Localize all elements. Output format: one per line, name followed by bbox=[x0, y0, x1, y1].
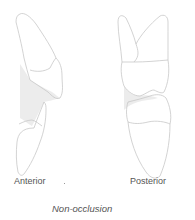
posterior-upper-cej-line bbox=[122, 60, 168, 62]
anterior-gap-shading bbox=[20, 64, 60, 126]
posterior-upper-roots bbox=[118, 15, 168, 62]
anterior-label: Anterior bbox=[14, 176, 46, 186]
posterior-label: Posterior bbox=[130, 176, 166, 186]
figure-caption: Non-occlusion bbox=[52, 203, 112, 214]
posterior-upper-crown bbox=[121, 60, 169, 96]
posterior-lower-root bbox=[128, 122, 170, 178]
posterior-upper-root-split bbox=[134, 44, 138, 62]
teeth-illustration bbox=[0, 0, 195, 220]
non-occlusion-figure: Anterior Posterior Non-occlusion bbox=[0, 0, 195, 220]
posterior-gap-shading bbox=[124, 86, 158, 110]
separator-dot bbox=[64, 183, 65, 184]
anterior-upper-cej-line bbox=[30, 58, 56, 71]
